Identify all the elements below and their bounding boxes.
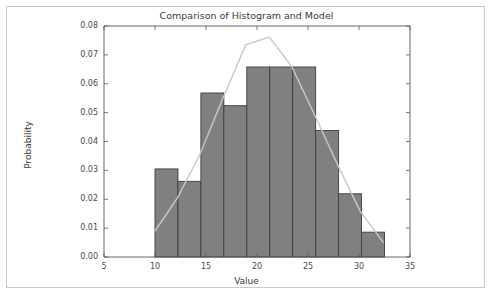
x-tick-label: 10 (140, 262, 170, 271)
x-tick-label: 35 (395, 262, 425, 271)
y-tick-label: 0.06 (58, 79, 98, 88)
y-tick-label: 0.07 (58, 50, 98, 59)
histogram-bar (339, 194, 362, 257)
histogram-bar (270, 67, 293, 257)
histogram-bar (201, 93, 224, 257)
x-tick-label: 25 (293, 262, 323, 271)
y-tick-label: 0.01 (58, 223, 98, 232)
y-tick-label: 0.03 (58, 165, 98, 174)
x-tick-label: 30 (344, 262, 374, 271)
y-tick-label: 0.04 (58, 137, 98, 146)
y-tick-label: 0.02 (58, 194, 98, 203)
x-tick-label: 20 (242, 262, 272, 271)
histogram-bars (155, 67, 385, 257)
y-tick-label: 0.08 (58, 21, 98, 30)
histogram-bar (178, 181, 201, 257)
histogram-bar (224, 106, 247, 257)
y-tick-label: 0.05 (58, 108, 98, 117)
y-tick-label: 0.00 (58, 252, 98, 261)
x-tick-label: 5 (89, 262, 119, 271)
histogram-bar (316, 131, 339, 257)
chart-figure: Comparison of Histogram and Model Probab… (0, 0, 493, 296)
x-tick-label: 15 (191, 262, 221, 271)
histogram-bar (362, 232, 385, 257)
histogram-bar (247, 67, 270, 257)
histogram-bar (293, 67, 316, 257)
